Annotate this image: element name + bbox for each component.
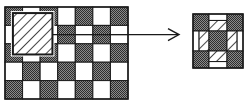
pattern-edge-outer bbox=[209, 14, 227, 20]
pattern-edge-inner bbox=[209, 51, 227, 62]
grid-cell bbox=[93, 81, 111, 99]
grid-cell bbox=[93, 25, 111, 34]
pattern-cell-dark bbox=[193, 14, 209, 31]
pattern-cell-dark bbox=[227, 51, 243, 68]
pattern-edge-inner bbox=[227, 31, 237, 51]
grid-cell bbox=[110, 7, 128, 25]
pattern-edge-inner bbox=[209, 20, 227, 31]
pattern-edge-outer bbox=[237, 31, 243, 51]
grid-cell bbox=[75, 81, 93, 99]
grid-cell bbox=[40, 62, 58, 80]
pattern-cell-dark bbox=[209, 31, 227, 51]
grid-cell bbox=[58, 81, 76, 99]
grid-cell bbox=[75, 44, 93, 62]
grid-cell bbox=[40, 81, 58, 99]
grid-cell bbox=[5, 62, 23, 80]
grid-cell bbox=[110, 81, 128, 99]
grid-cell bbox=[23, 62, 41, 80]
diagram bbox=[0, 0, 252, 105]
grid-cell bbox=[58, 35, 76, 44]
grid-cell bbox=[75, 25, 93, 34]
grid-cell bbox=[5, 81, 23, 99]
grid-cell bbox=[110, 35, 128, 44]
grid-cell bbox=[93, 7, 111, 25]
grid-cell bbox=[23, 81, 41, 99]
grid-cell bbox=[93, 44, 111, 62]
pattern-edge-outer bbox=[193, 31, 199, 51]
grid-cell bbox=[93, 35, 111, 44]
grid-cell bbox=[75, 35, 93, 44]
hatched-window bbox=[11, 11, 55, 56]
grid-cell bbox=[75, 62, 93, 80]
grid-cell bbox=[58, 7, 76, 25]
grid-cell bbox=[58, 62, 76, 80]
result-pattern bbox=[193, 14, 243, 68]
hatched-window-box bbox=[13, 13, 53, 54]
grid-cell bbox=[110, 25, 128, 34]
grid-cell bbox=[58, 44, 76, 62]
grid-cell bbox=[110, 62, 128, 80]
grid-cell bbox=[75, 7, 93, 25]
pattern-edge-outer bbox=[209, 62, 227, 68]
grid-cell bbox=[93, 62, 111, 80]
pattern-cell-dark bbox=[193, 51, 209, 68]
grid-cell bbox=[110, 44, 128, 62]
pattern-edge-inner bbox=[199, 31, 209, 51]
pattern-cell-dark bbox=[227, 14, 243, 31]
grid-cell bbox=[58, 25, 76, 34]
